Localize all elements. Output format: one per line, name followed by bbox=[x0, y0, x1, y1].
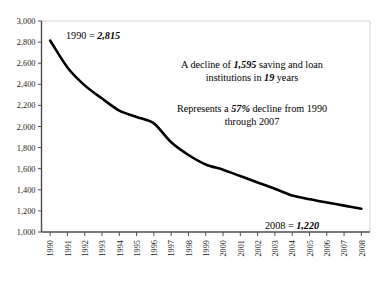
x-tick-label: 1995 bbox=[133, 240, 142, 257]
x-tick-label: 2000 bbox=[219, 240, 228, 257]
y-tick-label: 2,000 bbox=[17, 123, 36, 132]
annotation-end-value: 2008 = 1,220 bbox=[265, 220, 319, 231]
y-tick-label: 2,400 bbox=[17, 80, 36, 89]
x-tick-label: 1990 bbox=[46, 240, 55, 257]
x-tick-label: 2002 bbox=[254, 240, 263, 257]
x-tick-label: 2001 bbox=[237, 240, 246, 257]
y-tick-label: 3,000 bbox=[17, 17, 36, 26]
y-tick-label: 2,800 bbox=[17, 38, 36, 47]
annotation-percent-line-2: through 2007 bbox=[225, 116, 280, 127]
annotation-decline-line-1: A decline of 1,595 saving and loan bbox=[181, 59, 323, 70]
x-tick-label: 2005 bbox=[306, 240, 315, 257]
x-tick-label: 1998 bbox=[185, 240, 194, 257]
annotation-start-value: 1990 = 2,815 bbox=[66, 30, 120, 41]
x-tick-label: 1996 bbox=[150, 240, 159, 257]
x-tick-label: 2007 bbox=[340, 240, 349, 257]
x-tick-label: 1997 bbox=[167, 240, 176, 257]
y-tick-label: 1,800 bbox=[17, 144, 36, 153]
x-tick-label: 1999 bbox=[202, 240, 211, 257]
x-tick-label: 2004 bbox=[288, 239, 297, 256]
y-tick-label: 2,200 bbox=[17, 101, 36, 110]
y-tick-label: 1,600 bbox=[17, 165, 36, 174]
x-tick-label: 1994 bbox=[116, 239, 125, 256]
y-tick-label: 2,600 bbox=[17, 59, 36, 68]
annotation-percent-line-1: Represents a 57% decline from 1990 bbox=[177, 103, 327, 114]
x-tick-label: 2008 bbox=[358, 240, 367, 257]
y-tick-label: 1,200 bbox=[17, 207, 36, 216]
x-tick-label: 2006 bbox=[323, 240, 332, 257]
x-tick-label: 1991 bbox=[64, 240, 73, 257]
line-chart: 3,0002,8002,6002,4002,2002,0001,8001,600… bbox=[0, 0, 385, 286]
y-tick-label: 1,400 bbox=[17, 186, 36, 195]
x-tick-label: 1992 bbox=[81, 240, 90, 257]
x-tick-label: 2003 bbox=[271, 240, 280, 257]
x-tick-label: 1993 bbox=[98, 240, 107, 257]
y-tick-label: 1,000 bbox=[17, 228, 36, 237]
annotation-decline-line-2: institutions in 19 years bbox=[206, 72, 299, 83]
chart-container: 3,0002,8002,6002,4002,2002,0001,8001,600… bbox=[0, 0, 385, 286]
